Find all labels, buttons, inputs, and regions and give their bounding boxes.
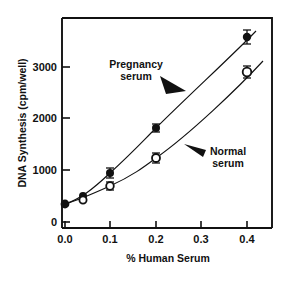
x-tick-label-02: 0.2: [148, 233, 163, 245]
data-point: [106, 182, 114, 190]
y-axis-title: DNA Synthesis (cpm/well): [16, 58, 28, 187]
annotation-normal-line2: serum: [212, 157, 244, 169]
annotation-pregnancy-line2: serum: [120, 70, 152, 82]
data-point: [152, 154, 160, 162]
y-tick-label-0: 0: [51, 216, 57, 228]
data-point: [106, 169, 114, 177]
dna-synthesis-chart: 0 1000 2000 3000 0.0 0.1 0.2 0.3 0.4 DNA…: [0, 0, 302, 281]
y-tick-label-3000: 3000: [33, 61, 57, 73]
x-tick-label-00: 0.0: [57, 233, 72, 245]
annotation-pregnancy-line1: Pregnancy: [109, 58, 163, 70]
x-tick-label-03: 0.3: [193, 233, 208, 245]
annotation-normal-line1: Normal: [210, 145, 246, 157]
data-point: [152, 124, 160, 132]
y-tick-label-1000: 1000: [33, 164, 57, 176]
data-point: [243, 68, 252, 77]
y-tick-label-2000: 2000: [33, 112, 57, 124]
x-axis-title: % Human Serum: [126, 252, 209, 264]
data-point: [79, 196, 86, 203]
data-point: [243, 33, 251, 41]
x-tick-label-04: 0.4: [239, 233, 255, 245]
x-tick-label-01: 0.1: [102, 233, 117, 245]
